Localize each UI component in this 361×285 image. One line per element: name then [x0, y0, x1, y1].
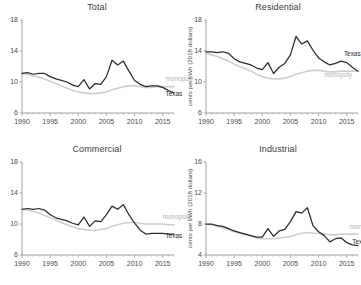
xtick-label: 2005 — [99, 260, 115, 267]
series-line-monopoly — [22, 209, 174, 230]
xtick-label: 2015 — [339, 260, 355, 267]
ytick-label: 10 — [10, 78, 18, 85]
xtick-label: 2010 — [127, 260, 143, 267]
series-line-texas — [206, 208, 358, 246]
series-annotation-monopoly: monopoly — [324, 71, 353, 79]
xtick-label: 2000 — [71, 260, 87, 267]
series-line-texas — [206, 36, 358, 73]
xtick-label: 2010 — [311, 118, 327, 125]
xtick-label: 1995 — [42, 260, 58, 267]
series-annotation-texas: Texas — [352, 238, 361, 245]
xtick-label: 1995 — [226, 118, 242, 125]
xtick-label: 1995 — [42, 118, 58, 125]
xtick-label: 2005 — [283, 260, 299, 267]
xtick-label: 2000 — [71, 118, 87, 125]
series-line-monopoly — [206, 224, 358, 239]
plot-residential: 1814106199019952000200520102015cents per… — [180, 0, 360, 142]
y-axis-label: cents per kWh (2018 dollars) — [186, 27, 193, 106]
xtick-label: 2005 — [99, 118, 115, 125]
ytick-label: 12 — [194, 189, 202, 196]
xtick-label: 2010 — [127, 118, 143, 125]
ytick-label: 18 — [10, 158, 18, 165]
panel-residential: Residential 1814106199019952000200520102… — [180, 0, 360, 142]
ytick-label: 14 — [10, 47, 18, 54]
xtick-label: 1990 — [198, 118, 214, 125]
ytick-label: 10 — [194, 78, 202, 85]
xtick-label: 1990 — [198, 260, 214, 267]
ytick-label: 6 — [198, 109, 202, 116]
panel-total: Total 1814106199019952000200520102015mon… — [0, 0, 180, 142]
panel-industrial: Industrial 16128419901995200020052010201… — [180, 142, 360, 284]
xtick-label: 2015 — [155, 260, 171, 267]
ytick-label: 18 — [10, 16, 18, 23]
plot-total: 1814106199019952000200520102015monopolyT… — [0, 0, 180, 142]
y-axis-label: cents per kWh (2018 dollars) — [186, 169, 193, 248]
xtick-label: 2005 — [283, 118, 299, 125]
xtick-label: 2000 — [255, 260, 271, 267]
ytick-label: 14 — [10, 189, 18, 196]
xtick-label: 2015 — [155, 118, 171, 125]
ytick-label: 8 — [198, 220, 202, 227]
chart-figure: Total 1814106199019952000200520102015mon… — [0, 0, 361, 285]
series-annotation-texas: Texas — [344, 50, 361, 57]
ytick-label: 6 — [14, 251, 18, 258]
xtick-label: 1990 — [14, 118, 30, 125]
ytick-label: 10 — [10, 220, 18, 227]
xtick-label: 1995 — [226, 260, 242, 267]
xtick-label: 1990 — [14, 260, 30, 267]
plot-commercial: 1814106199019952000200520102015monopolyT… — [0, 142, 180, 284]
xtick-label: 2015 — [339, 118, 355, 125]
plot-industrial: 161284199019952000200520102015cents per … — [180, 142, 360, 284]
xtick-label: 2010 — [311, 260, 327, 267]
ytick-label: 6 — [14, 109, 18, 116]
series-annotation-monopoly: monop — [350, 223, 361, 231]
ytick-label: 14 — [194, 47, 202, 54]
ytick-label: 16 — [194, 158, 202, 165]
ytick-label: 18 — [194, 16, 202, 23]
panel-commercial: Commercial 18141061990199520002005201020… — [0, 142, 180, 284]
xtick-label: 2000 — [255, 118, 271, 125]
ytick-label: 4 — [198, 251, 202, 258]
